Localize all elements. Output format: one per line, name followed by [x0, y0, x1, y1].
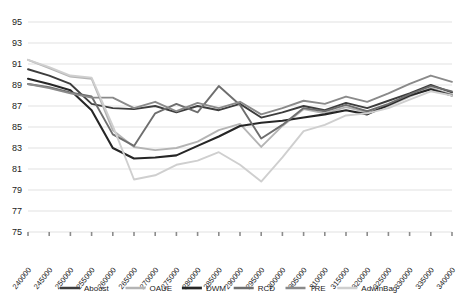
x-tick-label: 245000: [32, 266, 55, 291]
y-tick-label: 85: [12, 122, 22, 132]
y-tick-label: 89: [12, 80, 22, 90]
x-tick-label: 335000: [413, 266, 436, 291]
legend-label-dwm: DWM: [206, 284, 226, 293]
legend-label-aboost: Aboost: [84, 284, 110, 293]
x-tick-label: 340000: [435, 266, 458, 291]
y-tick-label: 87: [12, 101, 22, 111]
legend-label-adwinbag: AdwinBag: [361, 284, 397, 293]
x-axis-ticks: [28, 232, 452, 236]
legend-label-rcd: RCD: [258, 284, 276, 293]
y-tick-label: 93: [12, 38, 22, 48]
y-tick-label: 91: [12, 59, 22, 69]
y-tick-label: 81: [12, 164, 22, 174]
series-lines: [28, 60, 452, 182]
line-chart: 7577798183858789919395 24000024500025000…: [0, 0, 458, 302]
legend-label-oaue: OAUE: [150, 284, 173, 293]
y-tick-label: 77: [12, 206, 22, 216]
y-tick-label: 75: [12, 227, 22, 237]
y-tick-label: 95: [12, 17, 22, 27]
y-tick-label: 83: [12, 143, 22, 153]
x-tick-label: 240000: [11, 266, 34, 291]
series-line-adwinbag: [28, 60, 452, 182]
y-tick-label: 79: [12, 185, 22, 195]
series-line-dwm: [28, 79, 452, 159]
y-axis-tick-labels: 7577798183858789919395: [12, 17, 22, 237]
chart-canvas: 7577798183858789919395 24000024500025000…: [0, 0, 458, 302]
legend-label-tre: TRE: [310, 284, 326, 293]
